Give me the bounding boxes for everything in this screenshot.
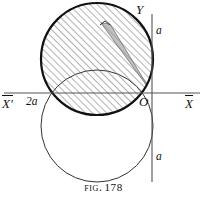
figure-caption-number: 178 bbox=[104, 181, 122, 193]
y-axis-tick-label-a-lower: a bbox=[156, 151, 162, 163]
figure-caption-prefix: Fig. bbox=[84, 180, 102, 194]
figure-caption: Fig.178 bbox=[0, 180, 207, 195]
x-axis-tick-label-2a: 2a bbox=[26, 96, 38, 108]
x-positive-axis-label: X bbox=[185, 95, 193, 110]
y-axis-tick-label-a-upper: a bbox=[156, 25, 162, 37]
origin-label: O bbox=[139, 95, 148, 108]
y-positive-axis-label: Y bbox=[136, 3, 143, 16]
x-negative-axis-label: X' bbox=[2, 95, 13, 110]
figure-178: X' X Y O a a 2a Fig.178 bbox=[0, 0, 207, 198]
